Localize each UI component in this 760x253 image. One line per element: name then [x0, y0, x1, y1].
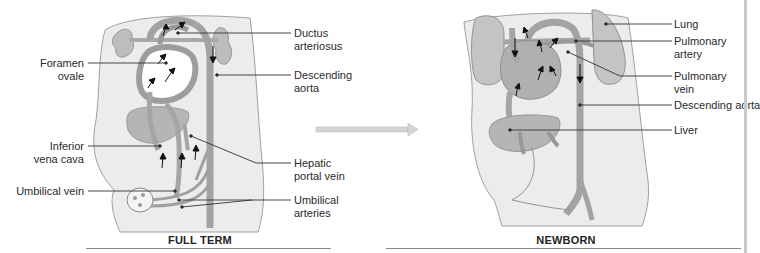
left-lung: [472, 16, 505, 85]
caption-newborn: NEWBORN: [516, 234, 616, 246]
page-edge: [744, 0, 747, 253]
newborn-panel: Lung Pulmonary artery Pulmonary vein Des…: [380, 0, 747, 253]
label-umbilical-arteries: Umbilical arteries: [294, 194, 339, 220]
label-inferior-vena-cava: Inferior vena cava: [20, 140, 84, 166]
caption-full-term: FULL TERM: [150, 234, 250, 246]
label-umbilical-vein: Umbilical vein: [4, 185, 84, 198]
label-descending-aorta: Descending aorta: [674, 99, 760, 112]
label-foramen-ovale: Foramen ovale: [30, 57, 84, 83]
label-lung: Lung: [674, 18, 698, 31]
label-descending-aorta: Descending aorta: [294, 69, 352, 95]
label-hepatic-portal-vein: Hepatic portal vein: [294, 157, 345, 183]
label-ductus-arteriosus: Ductus arteriosus: [294, 27, 342, 53]
label-pulmonary-vein: Pulmonary vein: [674, 70, 727, 96]
caption-underline-newborn: [386, 248, 741, 249]
label-liver: Liver: [674, 124, 698, 137]
umbilical-cord: [127, 188, 153, 212]
label-pulmonary-artery: Pulmonary artery: [674, 35, 727, 61]
caption-underline-full-term: [86, 248, 331, 249]
